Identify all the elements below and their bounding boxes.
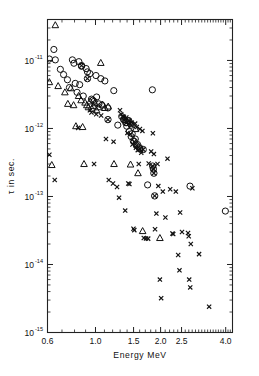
data-point-x-cross xyxy=(177,268,181,272)
data-point-open-triangle xyxy=(97,59,104,65)
data-point-open-triangle xyxy=(139,228,146,234)
data-point-x-cross xyxy=(111,181,115,185)
data-point-open-circle xyxy=(64,77,70,83)
y-axis-tick-labels: 10-1110-1210-1310-1410-15 xyxy=(25,54,44,338)
x-tick-label: 2.0 xyxy=(155,336,167,346)
data-point-open-triangle xyxy=(111,161,118,167)
data-point-open-triangle xyxy=(81,161,88,167)
y-tick-label: 10-13 xyxy=(25,190,44,202)
data-point-x-cross xyxy=(92,162,96,166)
data-point-x-cross xyxy=(154,212,158,216)
data-point-x-cross xyxy=(107,178,111,182)
data-point-open-triangle xyxy=(65,100,72,106)
data-point-circle-with-x xyxy=(105,116,111,122)
y-tick-label: 10-11 xyxy=(25,54,43,66)
data-point-x-cross xyxy=(140,129,144,133)
data-point-open-triangle xyxy=(135,170,142,176)
data-point-x-cross xyxy=(156,184,160,188)
data-point-open-triangle xyxy=(157,235,164,241)
series-cross xyxy=(47,108,211,309)
svg-text:-13: -13 xyxy=(35,190,43,196)
x-tick-label: 4.0 xyxy=(220,336,232,346)
svg-text:-14: -14 xyxy=(35,258,43,264)
plot-canvas: 0.61.01.52.02.54.010-1110-1210-1310-1410… xyxy=(0,0,259,376)
data-point-circle-with-x xyxy=(84,75,90,81)
data-point-x-cross xyxy=(187,234,191,238)
x-axis-tick-labels: 0.61.01.52.02.54.0 xyxy=(42,336,232,346)
x-tick-label: 1.0 xyxy=(90,336,102,346)
x-tick-label: 2.5 xyxy=(176,336,188,346)
data-point-x-cross xyxy=(153,227,157,231)
data-point-x-cross xyxy=(117,196,121,200)
data-point-x-cross xyxy=(152,152,156,156)
y-tick-label: 10-15 xyxy=(25,326,44,338)
series-triangle xyxy=(46,22,163,241)
data-point-x-cross xyxy=(118,108,122,112)
data-point-x-cross xyxy=(188,285,192,289)
data-point-open-triangle xyxy=(55,83,62,89)
data-point-x-cross xyxy=(111,140,115,144)
data-point-x-cross xyxy=(178,210,182,214)
data-point-circle-with-x xyxy=(151,193,157,199)
data-point-x-cross xyxy=(123,208,127,212)
data-point-x-cross xyxy=(158,277,162,281)
data-point-x-cross xyxy=(207,305,211,309)
svg-text:10: 10 xyxy=(25,56,35,66)
data-point-x-cross xyxy=(163,215,167,219)
data-point-x-cross xyxy=(159,296,163,300)
series-circled-cross xyxy=(78,62,158,199)
data-point-open-triangle xyxy=(127,161,134,167)
svg-text:10: 10 xyxy=(25,260,35,270)
data-point-x-cross xyxy=(161,189,165,193)
data-point-x-cross xyxy=(53,178,57,182)
y-tick-label: 10-14 xyxy=(25,258,44,270)
data-point-open-circle xyxy=(115,122,121,128)
data-point-open-circle xyxy=(51,46,57,52)
series-circle xyxy=(46,46,228,214)
data-point-open-triangle xyxy=(52,22,59,28)
y-tick-label: 10-12 xyxy=(25,122,44,134)
data-point-open-circle xyxy=(149,87,155,93)
data-point-x-cross xyxy=(137,162,141,166)
svg-text:-15: -15 xyxy=(35,326,43,332)
data-point-x-cross xyxy=(151,131,155,135)
data-point-open-circle xyxy=(145,182,151,188)
svg-text:-12: -12 xyxy=(35,122,43,128)
data-point-open-triangle xyxy=(48,162,55,168)
data-point-x-cross xyxy=(190,186,194,190)
x-tick-label: 0.6 xyxy=(42,336,54,346)
x-axis-title: Energy MeV xyxy=(113,350,166,360)
data-point-open-triangle xyxy=(70,102,77,108)
data-point-x-cross xyxy=(165,157,169,161)
data-point-open-circle xyxy=(222,208,228,214)
svg-text:10: 10 xyxy=(25,192,35,202)
svg-text:-11: -11 xyxy=(35,54,43,60)
data-point-x-cross xyxy=(104,137,108,141)
data-point-x-cross xyxy=(197,252,201,256)
data-point-x-cross xyxy=(174,189,178,193)
data-point-x-cross xyxy=(180,230,184,234)
data-point-x-cross xyxy=(189,242,193,246)
data-point-x-cross xyxy=(176,253,180,257)
x-tick-label: 1.5 xyxy=(128,336,140,346)
data-point-circle-with-x xyxy=(151,170,157,176)
data-point-x-cross xyxy=(187,277,191,281)
svg-text:10: 10 xyxy=(25,124,35,134)
svg-text:10: 10 xyxy=(25,328,35,338)
data-point-x-cross xyxy=(99,113,103,117)
data-layer xyxy=(46,22,228,309)
data-point-open-circle xyxy=(52,57,58,63)
data-point-x-cross xyxy=(115,185,119,189)
figure-scatter-lifetime-vs-energy: 0.61.01.52.02.54.010-1110-1210-1310-1410… xyxy=(0,0,259,376)
data-point-open-circle xyxy=(111,88,117,94)
y-axis-title: τ in sec. xyxy=(6,158,16,194)
data-point-x-cross xyxy=(168,187,172,191)
